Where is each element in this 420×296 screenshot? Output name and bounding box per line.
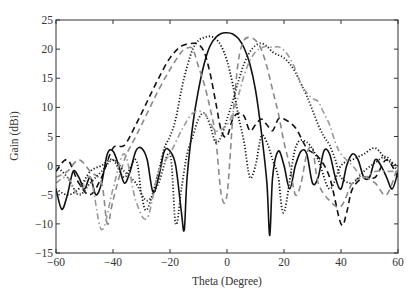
y-axis-label: Gain (dBi) (8, 111, 21, 161)
gain-vs-theta-chart: −60−40−200204060 −15−10−50510152025 Thet… (0, 0, 420, 296)
y-tick-label: 20 (42, 43, 54, 55)
data-series (56, 33, 398, 236)
x-tick-label: 40 (335, 256, 347, 268)
y-tick-label: −10 (35, 218, 53, 230)
x-tick-label: 60 (392, 256, 404, 268)
y-tick-label: 10 (42, 101, 54, 113)
y-tick-label: 25 (42, 14, 54, 26)
x-axis-label: Theta (Degree) (192, 275, 262, 288)
series-line-dashdot-gray (56, 46, 398, 230)
x-tick-label: −20 (161, 256, 179, 268)
y-tick-label: 15 (42, 72, 54, 84)
y-tick-label: −5 (41, 189, 53, 201)
y-tick-label: 0 (47, 160, 53, 172)
y-tick-label: −15 (35, 247, 53, 259)
series-line-dashed-gray (56, 37, 398, 224)
series-line-dotted-black-left (56, 36, 398, 212)
x-tick-label: 20 (278, 256, 290, 268)
x-tick-label: 0 (224, 256, 230, 268)
x-tick-label: −40 (104, 256, 122, 268)
series-line-solid-black (56, 33, 398, 236)
y-tick-label: 5 (47, 131, 53, 143)
